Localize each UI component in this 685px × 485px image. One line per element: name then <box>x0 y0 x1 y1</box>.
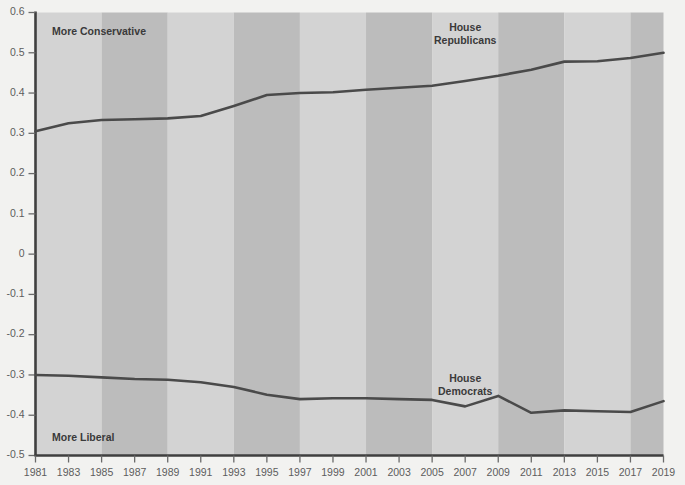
background-band <box>168 13 234 456</box>
background-band <box>366 13 432 456</box>
x-axis-tick-label: 2017 <box>619 466 643 478</box>
annotation-more-conservative: More Conservative <box>52 25 146 37</box>
background-band <box>102 13 168 456</box>
x-axis-tick-label: 1981 <box>24 466 48 478</box>
series-label-line: House <box>449 372 481 384</box>
y-axis-tick-label: -0.3 <box>6 368 24 380</box>
series-label-line: House <box>449 21 481 33</box>
x-axis-tick-label: 2019 <box>652 466 676 478</box>
y-axis-tick-label: 0 <box>19 247 25 259</box>
x-axis-tick-label: 1999 <box>321 466 345 478</box>
background-band <box>564 13 630 456</box>
background-band <box>630 13 663 456</box>
x-axis-tick-label: 1991 <box>189 466 213 478</box>
x-axis-tick-label: 1993 <box>222 466 246 478</box>
x-axis-tick-label: 1985 <box>90 466 114 478</box>
annotation-more-liberal: More Liberal <box>52 431 115 443</box>
y-axis-tick-label: 0.2 <box>10 166 25 178</box>
y-axis-tick-label: -0.1 <box>6 287 24 299</box>
y-axis: 0.60.50.40.30.20.10-0.1-0.2-0.3-0.4-0.5 <box>6 5 35 460</box>
background-band <box>300 13 366 456</box>
x-axis-tick-label: 2007 <box>454 466 478 478</box>
x-axis-tick-label: 2015 <box>586 466 610 478</box>
y-axis-tick-label: 0.3 <box>10 126 25 138</box>
x-axis-tick-label: 1983 <box>57 466 81 478</box>
x-axis: 1981198319851987198919911993199519971999… <box>24 456 676 478</box>
x-axis-tick-label: 2005 <box>420 466 444 478</box>
chart-container: 0.60.50.40.30.20.10-0.1-0.2-0.3-0.4-0.5 … <box>0 0 685 485</box>
x-axis-tick-label: 1997 <box>288 466 312 478</box>
background-band <box>498 13 564 456</box>
y-axis-tick-label: 0.4 <box>10 86 25 98</box>
x-axis-tick-label: 2003 <box>387 466 411 478</box>
x-axis-tick-label: 1995 <box>255 466 279 478</box>
x-axis-tick-label: 2009 <box>487 466 511 478</box>
background-band <box>36 13 102 456</box>
y-axis-tick-label: -0.5 <box>6 448 24 460</box>
y-axis-tick-label: -0.4 <box>6 408 24 420</box>
series-label-line: Democrats <box>438 385 492 397</box>
x-axis-tick-label: 2011 <box>520 466 543 478</box>
y-axis-tick-label: 0.5 <box>10 46 25 58</box>
series-label-line: Republicans <box>434 34 497 46</box>
background-bands <box>36 13 664 456</box>
y-axis-tick-label: 0.1 <box>10 207 25 219</box>
ideology-line-chart: 0.60.50.40.30.20.10-0.1-0.2-0.3-0.4-0.5 … <box>0 0 685 485</box>
x-axis-tick-label: 1989 <box>156 466 180 478</box>
y-axis-tick-label: 0.6 <box>10 5 25 17</box>
x-axis-tick-label: 2001 <box>354 466 378 478</box>
y-axis-tick-label: -0.2 <box>6 327 24 339</box>
x-axis-tick-label: 1987 <box>123 466 147 478</box>
x-axis-tick-label: 2013 <box>553 466 577 478</box>
